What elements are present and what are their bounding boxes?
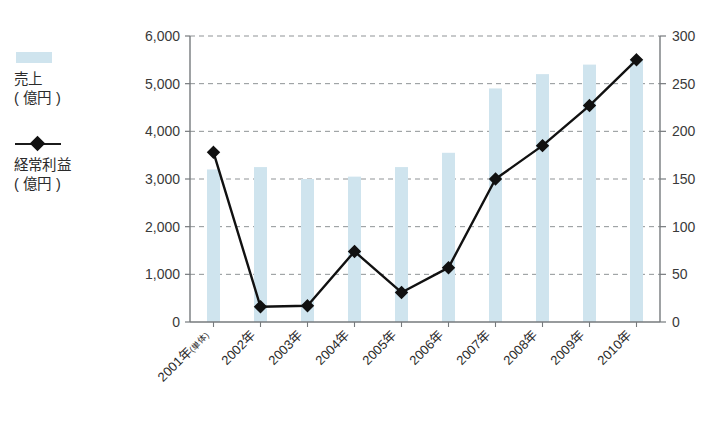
chart-plot-area: 01,0002,0003,0004,0005,0006,000050100150… <box>0 0 728 439</box>
axis-left-tick-label: 3,000 <box>145 171 180 187</box>
chart-svg: 01,0002,0003,0004,0005,0006,000050100150… <box>0 0 728 439</box>
axis-x-tick-label: 2008年 <box>500 328 540 368</box>
axis-x-tick-label-text: 2008年 <box>500 328 540 368</box>
axis-left-tick-label: 0 <box>172 314 180 330</box>
axis-x-tick-label-text: 2005年 <box>359 328 399 368</box>
line-ordinary-profit <box>214 60 637 307</box>
axis-left-tick-label: 4,000 <box>145 123 180 139</box>
bar-sales <box>254 167 267 322</box>
axis-x-tick-label-text: 2007年 <box>453 328 493 368</box>
axis-x-tick-label: 2006年 <box>406 328 446 368</box>
bar-sales <box>536 74 549 322</box>
axis-left-tick-label: 6,000 <box>145 28 180 44</box>
axis-x-tick-label: 2004年 <box>312 328 352 368</box>
axis-x-tick-label: 2005年 <box>359 328 399 368</box>
axis-x-tick-label-text: 2002年 <box>218 328 258 368</box>
axis-right-tick-label: 0 <box>672 314 680 330</box>
axis-right-tick-label: 250 <box>672 76 696 92</box>
axis-x-tick-label: 2010年 <box>594 328 634 368</box>
axis-x-tick-label-sub: (単体) <box>187 330 211 354</box>
axis-x-tick-label-text: 2004年 <box>312 328 352 368</box>
axis-x-tick-label: 2003年 <box>265 328 305 368</box>
axis-right-tick-label: 100 <box>672 219 696 235</box>
bar-sales <box>489 88 502 322</box>
bar-sales <box>207 169 220 322</box>
axis-right-tick-label: 50 <box>672 266 688 282</box>
chart-page: 売上 ( 億円 ) 経常利益 ( 億円 ) 01,0002,0003,0004,… <box>0 0 728 439</box>
axis-left-tick-label: 1,000 <box>145 266 180 282</box>
bar-sales <box>442 153 455 322</box>
axis-x-tick-label: 2001年(単体) <box>155 327 212 384</box>
axis-right-tick-label: 150 <box>672 171 696 187</box>
axis-right-tick-label: 300 <box>672 28 696 44</box>
axis-x-tick-label: 2002年 <box>218 328 258 368</box>
axis-left-tick-label: 5,000 <box>145 76 180 92</box>
marker-diamond <box>208 147 219 158</box>
axis-x-tick-label-text: 2001年(単体) <box>155 327 212 384</box>
axis-x-tick-label: 2007年 <box>453 328 493 368</box>
axis-x-tick-label-text: 2006年 <box>406 328 446 368</box>
axis-x-tick-label-text: 2010年 <box>594 328 634 368</box>
bar-sales <box>630 60 643 322</box>
axis-x-tick-label-text: 2003年 <box>265 328 305 368</box>
axis-x-tick-label-text: 2009年 <box>547 328 587 368</box>
axis-x-tick-label: 2009年 <box>547 328 587 368</box>
axis-right-tick-label: 200 <box>672 123 696 139</box>
axis-left-tick-label: 2,000 <box>145 219 180 235</box>
